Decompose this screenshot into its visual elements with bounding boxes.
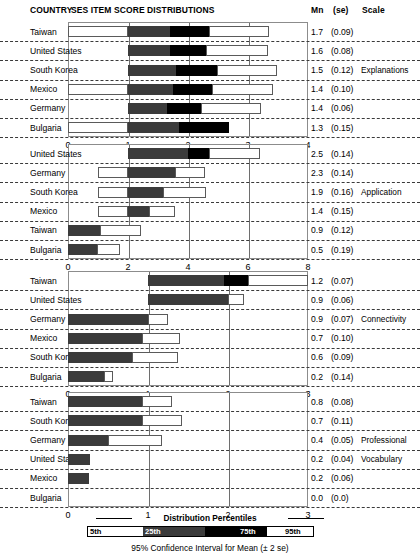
row-label-country: United States [30, 46, 82, 56]
row-label-country: Bulgaria [30, 493, 62, 503]
row-label-country: Mexico [30, 206, 57, 216]
row-mean-value: 0.9 [311, 225, 323, 235]
segment-5th-25th [68, 26, 128, 37]
row-mean-value: 0.2 [311, 454, 323, 464]
segment-75th-95th [142, 333, 180, 344]
segment-75th-95th [209, 148, 260, 159]
percentile-bar [68, 371, 113, 382]
header-standard-error: (se) [333, 5, 349, 15]
row-mean-value: 0.2 [311, 372, 323, 382]
row-separator [0, 290, 420, 291]
percentile-bar [128, 103, 261, 114]
row-separator [0, 348, 420, 349]
row-mean-value: 0.8 [311, 397, 323, 407]
segment-75th-95th [149, 206, 175, 217]
row-mean-value: 1.4 [311, 84, 323, 94]
segment-25th-50th [148, 275, 224, 286]
segment-75th-95th [104, 371, 113, 382]
row-mean-value: 1.4 [311, 206, 323, 216]
percentile-bar [68, 225, 141, 236]
table-header: COUNTRY SES ITEM SCORE DISTRIBUTIONS Mn … [0, 0, 420, 20]
row-label-country: Mexico [30, 84, 57, 94]
row-standard-error-value: (0.06) [331, 103, 353, 113]
row-mean-value: 1.3 [311, 123, 323, 133]
legend-label-5th: 5th [90, 527, 101, 536]
panel-scale-label: Vocabulary [361, 454, 402, 464]
segment-75th-95th [206, 45, 268, 56]
segment-5th-25th [98, 167, 128, 178]
segment-25th-50th [68, 333, 142, 344]
row-mean-value: 0.9 [311, 314, 323, 324]
row-label-country: Bulgaria [30, 123, 62, 133]
segment-75th-95th [217, 65, 277, 76]
row-standard-error-value: (0.14) [331, 149, 353, 159]
row-mean-value: 1.6 [311, 46, 323, 56]
row-separator [0, 450, 420, 451]
segment-25th-50th [128, 187, 163, 198]
row-separator [0, 60, 420, 61]
ses-item-score-distributions-figure: COUNTRY SES ITEM SCORE DISTRIBUTIONS Mn … [0, 0, 420, 557]
row-mean-value: 1.5 [311, 65, 323, 75]
segment-50th-75th [173, 84, 212, 95]
segment-25th-50th [68, 352, 132, 363]
row-standard-error-value: (0.10) [331, 333, 353, 343]
row-mean-value: 1.2 [311, 276, 323, 286]
row-standard-error-value: (0.16) [331, 187, 353, 197]
percentile-bar [148, 275, 308, 286]
segment-25th-50th [68, 473, 89, 484]
row-separator [0, 41, 420, 42]
percentile-bar [128, 65, 277, 76]
row-separator [0, 309, 420, 310]
segment-25th-50th [68, 314, 148, 325]
row-separator [0, 240, 420, 241]
segment-25th-50th [68, 244, 97, 255]
segment-75th-95th [175, 167, 205, 178]
segment-50th-75th [224, 275, 248, 286]
segment-50th-75th [188, 148, 209, 159]
row-standard-error-value: (0.08) [331, 397, 353, 407]
panel-scale-label: Connectivity [361, 314, 406, 324]
row-label-country: Mexico [30, 473, 57, 483]
row-separator [0, 507, 420, 508]
header-mean: Mn [311, 5, 323, 15]
row-separator [0, 329, 420, 330]
segment-25th-50th [128, 45, 170, 56]
segment-5th-25th [68, 122, 128, 133]
segment-25th-50th [128, 206, 149, 217]
legend-footnote: 95% Confidence Interval for Mean (± 2 se… [0, 543, 420, 553]
row-mean-value: 0.0 [311, 493, 323, 503]
row-separator [0, 137, 420, 138]
percentile-bar [68, 244, 120, 255]
segment-50th-75th [176, 65, 217, 76]
row-separator [0, 80, 420, 81]
row-standard-error-value: (0.15) [331, 206, 353, 216]
segment-75th-95th [209, 26, 269, 37]
segment-25th-50th [128, 103, 167, 114]
segment-75th-95th [132, 352, 178, 363]
segment-75th-95th [228, 294, 244, 305]
percentile-bar [68, 333, 180, 344]
percentile-bar [68, 473, 89, 484]
header-country: COUNTRY [30, 5, 72, 15]
row-separator [0, 221, 420, 222]
percentile-bar [98, 167, 205, 178]
row-standard-error-value: (0.14) [331, 168, 353, 178]
header-distributions: SES ITEM SCORE DISTRIBUTIONS [71, 5, 215, 15]
legend-label-95th: 95th [285, 527, 301, 536]
row-mean-value: 0.9 [311, 295, 323, 305]
segment-75th-95th [163, 187, 207, 198]
row-label-country: Bulgaria [30, 245, 62, 255]
row-mean-value: 0.5 [311, 245, 323, 255]
row-standard-error-value: (0.04) [331, 454, 353, 464]
segment-75th-95th [142, 415, 182, 426]
row-mean-value: 2.5 [311, 149, 323, 159]
row-separator [0, 182, 420, 183]
segment-75th-95th [100, 225, 141, 236]
row-standard-error-value: (0.11) [331, 416, 353, 426]
percentile-bar [68, 26, 269, 37]
legend-segment-50-75 [205, 527, 267, 536]
segment-25th-50th [68, 396, 142, 407]
row-label-country: Bulgaria [30, 372, 62, 382]
legend-bar: 5th 25th 75th 95th [87, 526, 314, 537]
percentile-bar [98, 187, 206, 198]
